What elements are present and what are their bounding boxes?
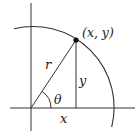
angle-arc [42,91,51,108]
polar-diagram: (x, y) r y θ x [0,0,138,137]
y-label: y [78,73,87,88]
x-label: x [60,111,68,126]
radius-label: r [45,57,52,72]
point-marker [73,37,78,42]
theta-label: θ [54,92,62,107]
point-label: (x, y) [82,25,114,40]
